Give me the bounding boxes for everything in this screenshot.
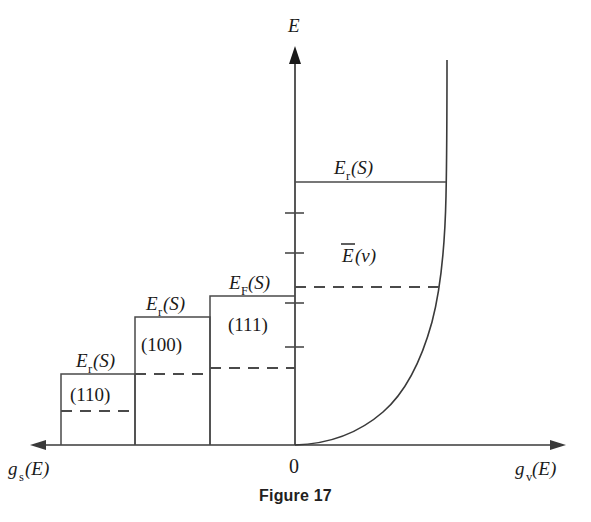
level-label-base: E (75, 350, 88, 371)
volume-energy-levels (295, 182, 446, 287)
left-axis-label-subscript: s (19, 470, 24, 484)
level-label-base: E (145, 293, 158, 314)
surface-bar-110-level-label: E r (S) (75, 350, 115, 376)
energy-axis-label: E (287, 15, 300, 36)
level-label-subscript: F (241, 284, 248, 298)
left-axis-label: g s (E) (8, 458, 49, 484)
right-axis-label-base: g (515, 458, 525, 479)
level-label-base: E (341, 245, 354, 266)
surface-bar-111-plane-label: (111) (228, 314, 268, 336)
up-arrowhead-icon (289, 46, 301, 64)
right-axis-label: g v (E) (515, 458, 556, 484)
level-label-argument: (S) (93, 350, 115, 372)
level-label-base: E (333, 157, 346, 178)
volume-level-Er-label: E r (S) (333, 157, 373, 183)
surface-bar-100-plane-label: (100) (141, 334, 182, 356)
surface-bar-111-level-label: E F (S) (228, 272, 270, 298)
origin-label: 0 (289, 455, 299, 477)
figure-caption: Figure 17 (0, 487, 591, 505)
volume-level-Ebar-label: E (v) (341, 244, 376, 267)
right-axis-label-argument: (E) (532, 458, 556, 480)
left-axis-label-argument: (E) (25, 458, 49, 480)
left-arrowhead-icon (30, 440, 46, 450)
left-axis-label-base: g (8, 458, 18, 479)
level-label-base: E (228, 272, 241, 293)
level-label-argument: (S) (163, 293, 185, 315)
surface-bar-110-plane-label: (110) (70, 384, 110, 406)
vertical-energy-axis (289, 46, 301, 445)
energy-density-of-states-diagram: g_v(E)) ===== --> (0, 0, 591, 522)
surface-bar-100-level-label: E r (S) (145, 293, 185, 319)
level-label-argument: (v) (355, 245, 376, 267)
level-label-argument: (S) (248, 272, 270, 294)
figure-17-container: g_v(E)) ===== --> (0, 0, 591, 522)
right-arrowhead-icon (550, 440, 566, 450)
level-label-argument: (S) (351, 157, 373, 179)
